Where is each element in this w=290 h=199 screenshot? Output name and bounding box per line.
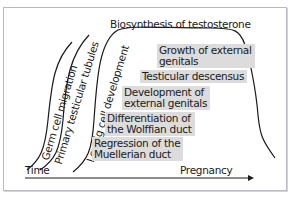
event-growth-external-genitals: Growth of external genitals bbox=[157, 44, 255, 68]
event-line: the Wolffian duct bbox=[107, 124, 192, 135]
event-line: Testicular descensus bbox=[142, 71, 244, 82]
event-development-external-genitals: Development of external genitals bbox=[122, 86, 210, 110]
event-line: genitals bbox=[159, 56, 252, 67]
event-line: external genitals bbox=[124, 98, 207, 109]
axis-label-time: Time bbox=[25, 164, 50, 176]
event-differentiation-wolffian: Differentiation of the Wolffian duct bbox=[105, 112, 195, 136]
event-testicular-descensus: Testicular descensus bbox=[140, 70, 247, 83]
event-line: Muellerian duct bbox=[94, 149, 180, 160]
arrow-head-icon bbox=[248, 175, 254, 181]
event-regression-muellerian: Regression of the Muellerian duct bbox=[92, 137, 183, 161]
title-label: Biosynthesis of testosterone bbox=[110, 18, 251, 30]
axis-label-pregnancy: Pregnancy bbox=[180, 164, 232, 176]
